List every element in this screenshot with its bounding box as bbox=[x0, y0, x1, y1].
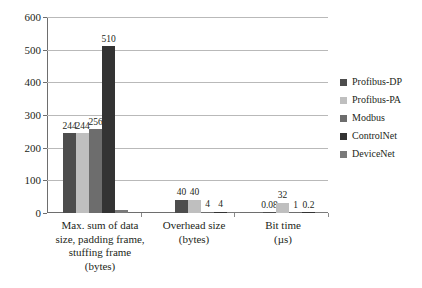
y-tick-label: 0 bbox=[36, 208, 42, 219]
bar-group: 0.083210.2 bbox=[263, 17, 328, 213]
y-tick-label: 100 bbox=[25, 175, 42, 186]
bar-value-label: 0.2 bbox=[303, 201, 315, 211]
bar[interactable]: 32 bbox=[276, 203, 289, 213]
bar[interactable]: 0.2 bbox=[302, 212, 315, 213]
legend: Profibus-DPProfibus-PAModbusControlNetDe… bbox=[340, 74, 402, 164]
category-label-line: (µs) bbox=[223, 233, 343, 247]
bar-value-label: 40 bbox=[177, 188, 187, 198]
bar[interactable] bbox=[115, 210, 128, 213]
y-tick-mark bbox=[43, 148, 47, 149]
category-label-line: stuffing frame bbox=[40, 246, 160, 260]
bar-group: 244244256510 bbox=[63, 17, 128, 213]
bar-value-label: 4 bbox=[218, 200, 223, 210]
legend-swatch-icon bbox=[340, 133, 347, 140]
legend-swatch-icon bbox=[340, 151, 347, 158]
legend-label: Profibus-PA bbox=[352, 95, 401, 105]
legend-swatch-icon bbox=[340, 79, 347, 86]
legend-swatch-icon bbox=[340, 115, 347, 122]
category-label-line: (bytes) bbox=[40, 260, 160, 274]
bar[interactable]: 4 bbox=[214, 212, 227, 213]
y-tick-label: 400 bbox=[25, 77, 42, 88]
category-label-line: Bit time bbox=[223, 219, 343, 233]
legend-item[interactable]: ControlNet bbox=[340, 128, 402, 144]
legend-label: Profibus-DP bbox=[352, 77, 402, 87]
y-tick-label: 300 bbox=[25, 110, 42, 121]
x-tick-mark bbox=[141, 213, 142, 217]
bar[interactable]: 4 bbox=[201, 212, 214, 213]
y-tick-mark bbox=[43, 180, 47, 181]
bar[interactable]: 244 bbox=[63, 133, 76, 213]
y-tick-mark bbox=[43, 82, 47, 83]
legend-item[interactable]: Profibus-DP bbox=[340, 74, 402, 90]
bar[interactable] bbox=[315, 212, 328, 213]
y-tick-mark bbox=[43, 17, 47, 18]
bar-value-label: 32 bbox=[278, 191, 288, 201]
legend-item[interactable]: Modbus bbox=[340, 110, 402, 126]
bar-value-label: 4 bbox=[205, 200, 210, 210]
y-tick-mark bbox=[43, 115, 47, 116]
legend-label: DeviceNet bbox=[352, 149, 395, 159]
bar[interactable]: 256 bbox=[89, 129, 102, 213]
bar[interactable]: 510 bbox=[102, 46, 115, 213]
legend-item[interactable]: DeviceNet bbox=[340, 146, 402, 162]
bar[interactable]: 0.08 bbox=[263, 212, 276, 213]
legend-label: Modbus bbox=[352, 113, 385, 123]
legend-item[interactable]: Profibus-PA bbox=[340, 92, 402, 108]
plot-area: 0100200300400500600 2442442565104040440.… bbox=[47, 17, 328, 213]
bar[interactable]: 244 bbox=[76, 133, 89, 213]
x-tick-mark bbox=[328, 213, 329, 217]
bar-chart: 0100200300400500600 2442442565104040440.… bbox=[0, 0, 422, 288]
legend-label: ControlNet bbox=[352, 131, 397, 141]
y-tick-label: 600 bbox=[25, 12, 42, 23]
y-tick-mark bbox=[43, 213, 47, 214]
bar-value-label: 256 bbox=[88, 118, 102, 128]
legend-swatch-icon bbox=[340, 97, 347, 104]
bar-value-label: 40 bbox=[190, 188, 200, 198]
x-tick-mark bbox=[234, 213, 235, 217]
category-label: Bit time(µs) bbox=[223, 219, 343, 246]
bar[interactable]: 1 bbox=[289, 212, 302, 213]
bar-value-label: 510 bbox=[101, 35, 115, 45]
bar[interactable]: 40 bbox=[175, 200, 188, 213]
y-tick-label: 500 bbox=[25, 44, 42, 55]
y-tick-label: 200 bbox=[25, 142, 42, 153]
bar-group: 404044 bbox=[175, 17, 240, 213]
y-tick-mark bbox=[43, 50, 47, 51]
bar[interactable]: 40 bbox=[188, 200, 201, 213]
bar-value-label: 1 bbox=[293, 201, 298, 211]
